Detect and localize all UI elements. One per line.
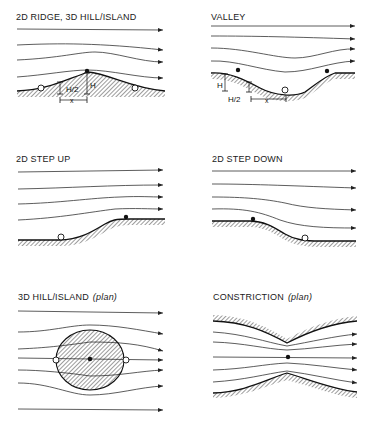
panel-step-down: 2D STEP DOWN <box>185 140 369 280</box>
constriction-diagram <box>185 280 369 423</box>
panel-ridge: 2D RIDGE, 3D HILL/ISLAND H/2 H x <box>0 0 185 140</box>
step-down-diagram <box>185 140 369 280</box>
speed-up-marker <box>88 357 93 362</box>
slow-down-marker <box>123 357 129 363</box>
speed-up-marker <box>286 355 290 359</box>
panel-hill-plan: 3D HILL/ISLAND(plan) <box>0 280 185 423</box>
hill-plan-diagram <box>0 280 185 423</box>
slow-down-marker <box>132 85 138 91</box>
valley-diagram: H H/2 x <box>185 0 369 140</box>
svg-text:H: H <box>217 81 223 90</box>
slow-down-marker <box>282 87 288 93</box>
svg-text:H/2: H/2 <box>228 95 241 104</box>
svg-text:x: x <box>70 97 74 104</box>
slow-down-marker <box>302 235 308 241</box>
speed-up-marker <box>85 69 89 73</box>
svg-text:H/2: H/2 <box>66 85 79 94</box>
slow-down-marker <box>58 234 64 240</box>
ridge-diagram: H/2 H x <box>0 0 185 140</box>
speed-up-marker <box>325 69 329 73</box>
svg-text:x: x <box>265 97 269 104</box>
speed-up-marker <box>124 215 128 219</box>
speed-up-marker <box>236 68 240 72</box>
slow-down-marker <box>53 357 59 363</box>
step-up-diagram <box>0 140 185 280</box>
slow-down-marker <box>38 85 44 91</box>
panel-valley: VALLEY H H/2 x <box>185 0 369 140</box>
panel-step-up: 2D STEP UP <box>0 140 185 280</box>
speed-up-marker <box>251 217 255 221</box>
svg-text:H: H <box>90 81 96 90</box>
panel-constriction: CONSTRICTION(plan) <box>185 280 369 423</box>
